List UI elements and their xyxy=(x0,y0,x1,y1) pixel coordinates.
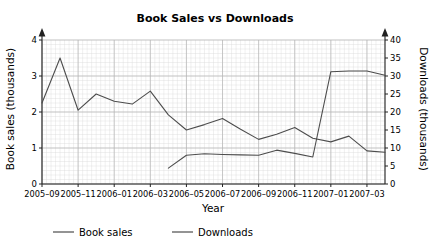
y-axis-right-tick-label: 25 xyxy=(390,89,401,99)
chart-figure: Book Sales vs Downloads 01234 0510152025… xyxy=(0,0,431,247)
x-axis-tick-label: 2006–07 xyxy=(205,189,240,199)
y-axis-right-tick-label: 35 xyxy=(390,53,401,63)
y-axis-right-tick-label: 5 xyxy=(390,161,395,171)
y-axis-left-tick-label: 1 xyxy=(32,143,37,153)
y-axis-left-tick-label: 2 xyxy=(32,107,37,117)
y-axis-right-tick-label: 15 xyxy=(390,125,401,135)
legend-label[interactable]: Book sales xyxy=(79,227,133,238)
x-axis-tick-label: 2005–11 xyxy=(60,189,95,199)
y-axis-right-tick-label: 30 xyxy=(390,71,401,81)
y-axis-left-tick-label: 0 xyxy=(32,179,37,189)
x-axis-tick-label: 2006–09 xyxy=(241,189,276,199)
y-axis-right-tick-label: 20 xyxy=(390,107,401,117)
y-axis-right-tick-label: 40 xyxy=(390,35,401,45)
y-axis-left-title: Book sales (thousands) xyxy=(4,48,16,170)
chart-title: Book Sales vs Downloads xyxy=(137,12,294,25)
x-axis-tick-label: 2006–05 xyxy=(169,189,204,199)
x-axis-tick-label: 2007–01 xyxy=(313,189,348,199)
book-sales-vs-downloads-chart: Book Sales vs Downloads 01234 0510152025… xyxy=(0,0,431,247)
y-axis-left-tick-label: 3 xyxy=(32,71,37,81)
x-axis-tick-label: 2005–09 xyxy=(24,189,59,199)
x-axis-tick-label: 2006–03 xyxy=(133,189,168,199)
y-axis-right-tick-label: 0 xyxy=(390,179,395,189)
y-axis-left-tick-label: 4 xyxy=(32,35,37,45)
x-axis-tick-label: 2006–11 xyxy=(277,189,312,199)
y-axis-right-tick-label: 10 xyxy=(390,143,401,153)
x-axis-tick-label: 2007–03 xyxy=(349,189,384,199)
x-axis-tick-label: 2006–01 xyxy=(97,189,132,199)
y-axis-right-title: Downloads (thousands) xyxy=(418,47,430,171)
legend-label[interactable]: Downloads xyxy=(198,227,253,238)
x-axis-title: Year xyxy=(201,202,225,214)
